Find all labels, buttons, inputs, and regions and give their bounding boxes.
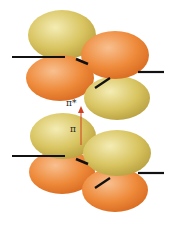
pi-star-label: π*	[66, 99, 76, 108]
orbital-diagram: π* π	[0, 0, 171, 228]
pi-label: π	[70, 125, 76, 134]
pi-orbital	[12, 113, 164, 212]
orbital-figure	[0, 0, 171, 228]
pi-star-orbital	[12, 10, 164, 120]
lobe-yellow-bottom-right	[84, 76, 150, 120]
lobe-yellow-top-right	[83, 130, 151, 176]
